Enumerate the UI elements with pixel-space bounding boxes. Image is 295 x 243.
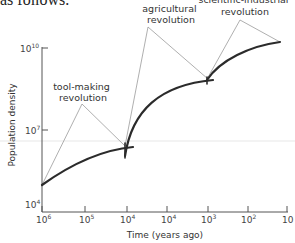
x-tick-label-4: 103 [201,213,216,225]
population-chart: tool-making revolution agricultural revo… [0,0,295,243]
agricultural-pointer [125,27,208,146]
agricultural-label: agricultural revolution [142,3,199,25]
x-tick-label-3: 104 [161,213,176,225]
scientific-phase-curve [207,42,280,80]
y-tick-label-10-4: 104 [25,198,40,210]
x-tick-label-0: 106 [36,213,51,225]
agricultural-phase-curve [125,80,213,156]
scientific-industrial-label: scientific-industrial revolution [198,0,291,17]
x-tick-label-1: 105 [79,213,94,225]
tool-making-phase-curve [42,147,133,185]
y-axis-title: Population density [7,83,17,167]
y-tick-label-10-7: 107 [25,124,40,136]
tool-making-pointer [42,104,125,185]
axes [42,47,288,212]
x-tick-label-5: 102 [241,213,256,225]
scientific-pointer [207,20,280,79]
tool-making-label: tool-making revolution [53,81,113,103]
x-tick-label-6: 10 [282,215,294,225]
x-axis-title: Time (years ago) [126,230,203,240]
y-tick-label-10-10: 1010 [20,42,39,54]
x-tick-label-2: 104 [120,213,135,225]
